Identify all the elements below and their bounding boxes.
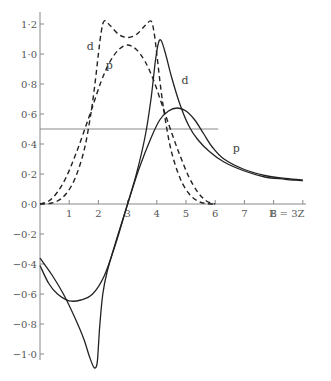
curve-label-solid-d: d [182, 74, 189, 87]
y-tick-label: 0·4 [21, 139, 37, 150]
x-tick-label: 5 [183, 208, 189, 219]
y-tick-label: 0·0 [21, 199, 37, 210]
x-tick-label: 7 [241, 208, 247, 219]
y-tick-label: 1·0 [21, 49, 37, 60]
chart: 12345678E = 3Z 1·21·00·80·60·40·20·0−0·2… [0, 0, 331, 381]
curve-labels: dpdp [87, 40, 240, 155]
x-tick-label: E = 3Z [269, 208, 304, 219]
y-tick-label: −0·8 [13, 319, 37, 330]
curve-label-dashed-d: d [87, 40, 94, 53]
y-tick-label: 0·2 [21, 169, 37, 180]
axes [40, 12, 306, 360]
x-tick-label: 6 [212, 208, 218, 219]
y-tick-label: −0·4 [13, 259, 37, 270]
y-tick-label: 0·6 [21, 109, 37, 120]
x-tick-label: 1 [66, 208, 72, 219]
y-tick-label: −0·2 [13, 229, 37, 240]
y-tick-label: −1·0 [13, 349, 37, 360]
y-tick-label: 1·2 [21, 19, 37, 30]
x-tick-label: 4 [154, 208, 160, 219]
x-tick-label: 2 [95, 208, 101, 219]
series-dashed-p-line [40, 45, 215, 204]
series-group [40, 21, 303, 368]
y-tick-label: 0·8 [21, 79, 37, 90]
series-solid-p-line [40, 108, 303, 301]
y-tick-label: −0·6 [13, 289, 37, 300]
x-ticks: 12345678E = 3Z [66, 200, 305, 219]
curve-label-dashed-p: p [106, 59, 113, 72]
y-ticks: 1·21·00·80·60·40·20·0−0·2−0·4−0·6−0·8−1·… [13, 19, 44, 360]
curve-label-solid-p: p [233, 142, 240, 155]
